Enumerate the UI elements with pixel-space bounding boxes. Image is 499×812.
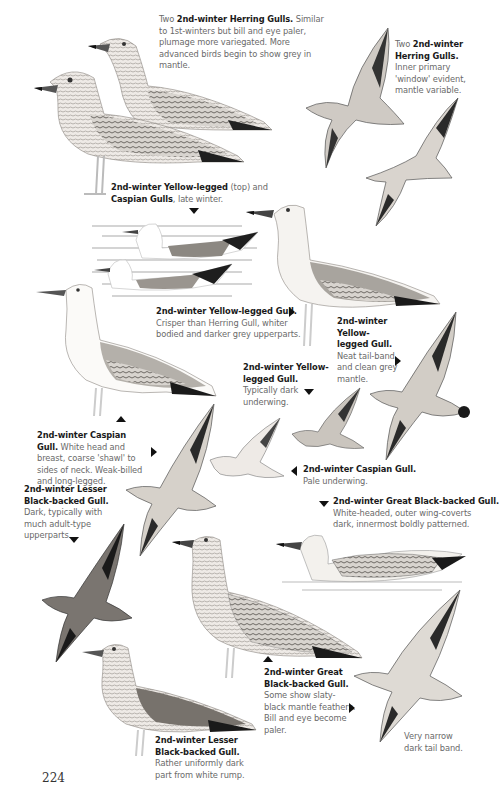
pointer-arrow-right [349, 703, 355, 713]
caption-title: 2nd-winter Great Black-backed Gull. [333, 496, 499, 506]
caption-herring-pair: Two 2nd-winter Herring Gulls. Similar to… [159, 14, 329, 72]
pointer-arrow-up [263, 656, 273, 662]
caption-title: 2nd-winter Lesser Black-backed Gull. [24, 484, 109, 506]
caption-title: 2nd-winter Yellow-legged Gull. [243, 362, 329, 384]
caption-title: 2nd-winter Herring Gulls. [177, 14, 293, 24]
pointer-arrow-right [151, 447, 157, 457]
pointer-arrow-down [304, 389, 314, 395]
pointer-arrow-up [116, 416, 126, 422]
caption-caspian-standing: 2nd-winter Caspian Gull. White head and … [37, 430, 149, 488]
caption-lesser-black-backed-standing: 2nd-winter Lesser Black-backed Gull. Rat… [155, 735, 255, 781]
caption-yellow-legged-flight-under: 2nd-winter Yellow-legged Gull. Typically… [243, 362, 335, 408]
caption-title: 2nd-winter Yellow-legged [111, 182, 228, 192]
pointer-arrow-left [291, 466, 297, 476]
pointer-arrow-down [189, 208, 199, 214]
pointer-arrow-down [69, 537, 79, 543]
caption-great-black-backed-swimming: 2nd-winter Great Black-backed Gull. Whit… [333, 496, 493, 531]
caption-herring-flight: Two 2nd-winter Herring Gulls. Inner prim… [395, 39, 475, 97]
caption-lesser-black-backed-flight: 2nd-winter Lesser Black-backed Gull. Dar… [24, 484, 119, 542]
caspian-gull-standing-illustration [36, 280, 226, 420]
caspian-gull-flight-illustration [208, 418, 288, 488]
caption-yellow-legged-caspian-swimming: 2nd-winter Yellow-legged (top) and Caspi… [111, 182, 271, 205]
page-number: 224 [42, 771, 65, 785]
caption-yellow-legged-flight-upper: 2nd-winter Yellow-legged Gull. Neat tail… [337, 316, 399, 386]
caption-title-2: Caspian Gulls [111, 194, 173, 204]
caption-title: 2nd-winter Yellow-legged Gull. [156, 306, 297, 316]
caption-title: 2nd-winter Great Black-backed Gull. [264, 667, 349, 689]
caption-great-black-backed-tail: Very narrow dark tail band. [404, 731, 466, 754]
caption-title: 2nd-winter Yellow-legged Gull. [337, 316, 392, 349]
pointer-arrow-right [289, 307, 295, 317]
pointer-arrow-down [319, 501, 329, 507]
caption-title: 2nd-winter Lesser Black-backed Gull. [155, 735, 240, 757]
caption-great-black-backed-standing: 2nd-winter Great Black-backed Gull. Some… [264, 667, 356, 737]
pointer-arrow-right [395, 356, 401, 366]
caption-title: 2nd-winter Caspian Gull. [303, 464, 416, 474]
great-black-backed-gull-flight-illustration [350, 586, 470, 746]
caption-caspian-flight: 2nd-winter Caspian Gull. Pale underwing. [303, 464, 423, 487]
